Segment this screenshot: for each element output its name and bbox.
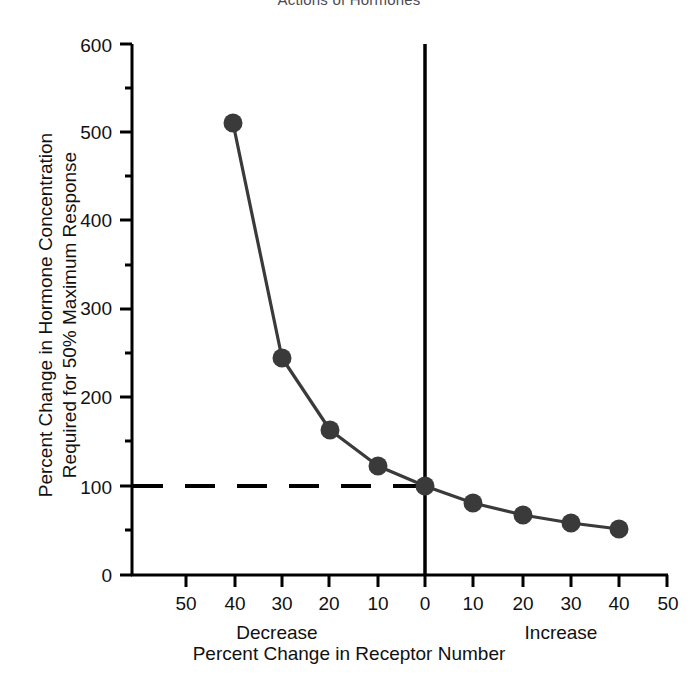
data-point-increase-40 — [610, 520, 629, 539]
data-point-increase-30 — [562, 514, 581, 533]
data-point-zero — [416, 477, 435, 496]
x-axis-ticks — [186, 575, 667, 587]
plot-area — [0, 0, 698, 687]
y-axis-major-ticks — [120, 44, 132, 575]
data-point-increase-20 — [514, 506, 533, 525]
data-point-decrease-30 — [273, 349, 292, 368]
data-point-decrease-40 — [224, 114, 243, 133]
data-point-decrease-20 — [321, 421, 340, 440]
data-point-decrease-10 — [369, 457, 388, 476]
chart-figure: Actions of Hormones Percent Change in Ho… — [0, 0, 698, 687]
data-point-increase-10 — [464, 494, 483, 513]
